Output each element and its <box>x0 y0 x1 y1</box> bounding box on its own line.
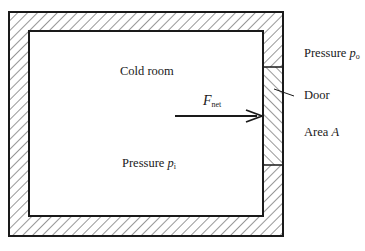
room-label: Cold room <box>120 64 174 79</box>
door-label: Door <box>304 88 330 103</box>
outside-pressure-label: Pressure po <box>304 46 360 61</box>
inside-pressure-label: Pressure pi <box>122 156 176 171</box>
area-label: Area A <box>304 125 339 140</box>
net-force-label: Fnet <box>203 93 221 109</box>
insulated-wall <box>9 12 283 236</box>
